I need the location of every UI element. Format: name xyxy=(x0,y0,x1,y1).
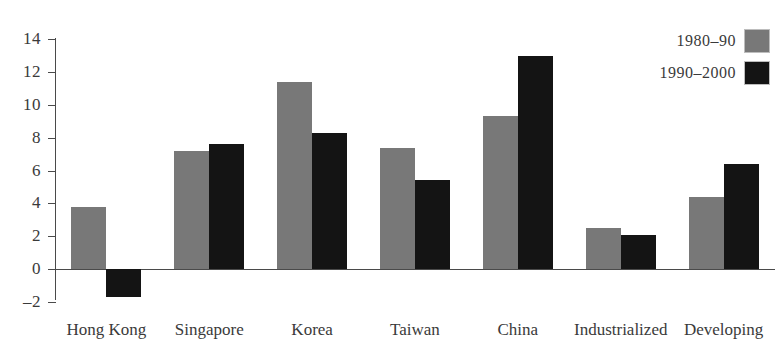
y-axis-tick xyxy=(48,171,56,172)
legend-item: 1980–90 xyxy=(614,28,770,54)
x-axis-category-label: Industrialized xyxy=(569,320,672,340)
y-axis-tick xyxy=(48,39,56,40)
bar xyxy=(518,56,553,269)
bar xyxy=(689,197,724,269)
y-axis-line xyxy=(55,38,56,300)
bar xyxy=(106,269,141,297)
x-axis-category-label: Developing xyxy=(672,320,775,340)
legend-color-swatch xyxy=(744,29,770,53)
y-axis-tick-label: 8 xyxy=(0,129,41,146)
legend-item: 1990–2000 xyxy=(614,60,770,86)
legend-color-swatch xyxy=(744,61,770,85)
y-axis-tick xyxy=(48,236,56,237)
bar xyxy=(71,207,106,269)
x-axis-category-label: Korea xyxy=(261,320,364,340)
bar xyxy=(621,235,656,269)
y-axis-tick-label: 2 xyxy=(0,227,41,244)
bar xyxy=(724,164,759,269)
x-axis-category-label: China xyxy=(466,320,569,340)
y-axis-tick-label: 6 xyxy=(0,162,41,179)
y-axis-tick-label: 0 xyxy=(0,260,41,277)
bar xyxy=(277,82,312,269)
y-axis-tick xyxy=(48,203,56,204)
zero-baseline xyxy=(55,269,775,270)
bar xyxy=(312,133,347,269)
bar xyxy=(209,144,244,269)
legend-item-label: 1990–2000 xyxy=(660,64,737,82)
bar xyxy=(483,116,518,269)
y-axis-tick xyxy=(48,72,56,73)
bar xyxy=(174,151,209,269)
bar xyxy=(586,228,621,269)
legend: 1980–901990–2000 xyxy=(614,28,770,92)
y-axis-tick-label: 4 xyxy=(0,194,41,211)
y-axis-tick-label: 12 xyxy=(0,63,41,80)
y-axis-tick xyxy=(48,302,56,303)
bar-chart: 14121086420–2 Hong KongSingaporeKoreaTai… xyxy=(0,0,776,363)
x-axis-category-label: Singapore xyxy=(158,320,261,340)
legend-item-label: 1980–90 xyxy=(677,32,737,50)
x-axis-category-label: Taiwan xyxy=(364,320,467,340)
x-axis-category-label: Hong Kong xyxy=(55,320,158,340)
y-axis-tick-label: 10 xyxy=(0,96,41,113)
y-axis-tick xyxy=(48,105,56,106)
bar xyxy=(415,180,450,269)
bar xyxy=(380,148,415,269)
y-axis-tick xyxy=(48,138,56,139)
y-axis-tick-label: –2 xyxy=(0,293,41,310)
y-axis-tick-label: 14 xyxy=(0,30,41,47)
